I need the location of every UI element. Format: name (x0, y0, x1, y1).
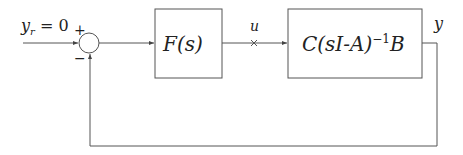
sum-plus-sign: + (74, 22, 86, 38)
input-subscript: r (30, 26, 35, 37)
block-diagram (0, 0, 463, 155)
feedback-path (90, 43, 437, 146)
controller-label: F(s) (163, 32, 203, 56)
output-label: y (434, 14, 443, 33)
plant-label-exponent: −1 (372, 32, 390, 46)
input-label: yr = 0 (21, 16, 69, 37)
plant-label: C(sI-A)−1B (302, 32, 405, 56)
input-equals: = 0 (40, 16, 69, 35)
plant-label-main: C(sI-A) (302, 32, 372, 56)
sum-minus-sign: − (74, 50, 86, 66)
plant-label-b: B (390, 32, 405, 56)
input-var: y (21, 16, 30, 35)
signal-u-label: u (250, 18, 259, 34)
